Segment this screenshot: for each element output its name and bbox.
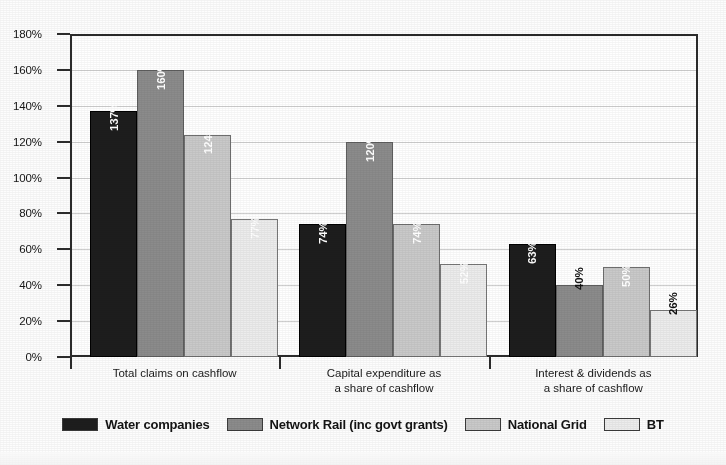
bar-value-label: 63% <box>526 242 538 264</box>
chart-legend: Water companiesNetwork Rail (inc govt gr… <box>0 408 726 440</box>
legend-label: BT <box>647 417 664 432</box>
y-axis-tick-label: 180% <box>13 28 42 40</box>
bar-value-label: 74% <box>411 222 423 244</box>
bar-value-label: 77% <box>249 216 261 238</box>
page-bottom-edge <box>0 452 726 465</box>
chart-page: 0%20%40%60%80%100%120%140%160%180% 137%1… <box>0 0 726 465</box>
category-label-line: Capital expenditure as <box>279 366 488 381</box>
bar <box>137 70 184 357</box>
y-axis-tick-mark <box>57 177 70 179</box>
category-separator-tick <box>70 357 72 369</box>
bar-value-label: 124% <box>202 126 214 155</box>
category-label: Interest & dividends asa share of cashfl… <box>489 366 698 395</box>
bar-value-label: 40% <box>573 268 585 290</box>
bar <box>231 219 278 357</box>
category-separator-tick <box>489 357 491 369</box>
legend-item: BT <box>604 417 664 432</box>
category-label: Total claims on cashflow <box>70 366 279 381</box>
y-axis-tick-mark <box>57 248 70 250</box>
legend-label: Water companies <box>105 417 209 432</box>
category-label-line: Total claims on cashflow <box>70 366 279 381</box>
category-label-line: Interest & dividends as <box>489 366 698 381</box>
bar <box>346 142 393 357</box>
legend-swatch <box>604 418 640 431</box>
bar-value-label: 52% <box>458 261 470 283</box>
legend-label: National Grid <box>508 417 587 432</box>
bar <box>556 285 603 357</box>
category-label: Capital expenditure asa share of cashflo… <box>279 366 488 395</box>
y-axis-tick-label: 60% <box>19 243 42 255</box>
category-separator-tick <box>279 357 281 369</box>
y-axis-tick-label: 40% <box>19 279 42 291</box>
y-axis-tick-label: 100% <box>13 172 42 184</box>
y-axis-tick-mark <box>57 284 70 286</box>
bar-value-label: 137% <box>108 103 120 132</box>
y-axis-tick-mark <box>57 141 70 143</box>
legend-item: Water companies <box>62 417 209 432</box>
legend-swatch <box>62 418 98 431</box>
bar-value-label: 74% <box>317 222 329 244</box>
y-axis-tick-mark <box>57 69 70 71</box>
y-axis-tick-mark <box>57 105 70 107</box>
legend-swatch <box>465 418 501 431</box>
legend-swatch <box>227 418 263 431</box>
y-axis-tick-label: 140% <box>13 100 42 112</box>
bar-value-label: 120% <box>364 133 376 162</box>
bar <box>184 135 231 358</box>
y-axis-tick-label: 80% <box>19 207 42 219</box>
category-label-line: a share of cashflow <box>279 381 488 396</box>
bar <box>650 310 697 357</box>
y-axis-tick-mark <box>57 356 70 358</box>
legend-label: Network Rail (inc govt grants) <box>270 417 448 432</box>
bars-layer: 137%160%124%77%74%120%74%52%63%40%50%26% <box>70 34 698 357</box>
y-axis-tick-mark <box>57 320 70 322</box>
y-axis-tick-label: 20% <box>19 315 42 327</box>
y-axis-tick-mark <box>57 212 70 214</box>
y-axis-tick-label: 160% <box>13 64 42 76</box>
bar <box>393 224 440 357</box>
bar <box>299 224 346 357</box>
category-label-line: a share of cashflow <box>489 381 698 396</box>
y-axis: 0%20%40%60%80%100%120%140%160%180% <box>0 0 70 391</box>
y-axis-tick-label: 120% <box>13 136 42 148</box>
bar-value-label: 160% <box>155 61 167 90</box>
bar-value-label: 26% <box>667 293 679 315</box>
legend-item: National Grid <box>465 417 587 432</box>
bar-value-label: 50% <box>620 265 632 287</box>
bar <box>90 111 137 357</box>
legend-item: Network Rail (inc govt grants) <box>227 417 448 432</box>
y-axis-tick-label: 0% <box>26 351 42 363</box>
y-axis-tick-mark <box>57 33 70 35</box>
